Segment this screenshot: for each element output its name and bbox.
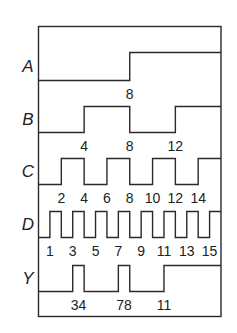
waveform-d xyxy=(39,212,222,238)
waveform-y xyxy=(39,266,222,292)
signal-labels: ABCDY xyxy=(21,57,35,288)
time-label: 4 xyxy=(80,190,88,206)
time-label: 7 xyxy=(114,243,122,259)
signal-label-d: D xyxy=(22,215,34,234)
time-label: 4 xyxy=(80,138,88,154)
time-label: 5 xyxy=(92,243,100,259)
time-label: 1 xyxy=(46,243,54,259)
timing-diagram: ABCDY 84812246810121413579111315347811 xyxy=(0,0,237,333)
waveform-c xyxy=(39,159,222,185)
waveform-a xyxy=(39,53,222,81)
time-label: 12 xyxy=(168,190,184,206)
time-label: 13 xyxy=(179,243,195,259)
time-label: 14 xyxy=(190,190,206,206)
time-label: 8 xyxy=(126,86,134,102)
signal-label-c: C xyxy=(22,162,35,181)
signal-label-a: A xyxy=(21,57,33,76)
time-label: 10 xyxy=(145,190,161,206)
time-label: 8 xyxy=(126,138,134,154)
waveform-b xyxy=(39,107,222,133)
time-label: 3 xyxy=(69,243,77,259)
signal-label-y: Y xyxy=(22,269,35,288)
time-label: 34 xyxy=(71,297,87,313)
time-label: 11 xyxy=(157,243,172,259)
time-labels: 84812246810121413579111315347811 xyxy=(46,86,218,313)
time-label: 6 xyxy=(103,190,111,206)
time-label: 15 xyxy=(202,243,218,259)
time-label: 12 xyxy=(168,138,184,154)
signal-label-b: B xyxy=(22,110,33,129)
time-label: 2 xyxy=(57,190,65,206)
time-label: 78 xyxy=(116,297,132,313)
time-label: 11 xyxy=(157,297,172,313)
time-label: 8 xyxy=(126,190,134,206)
time-label: 9 xyxy=(137,243,145,259)
